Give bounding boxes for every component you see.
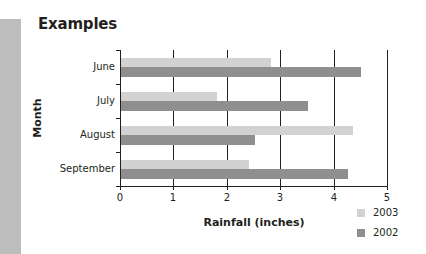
bar-september-2002 xyxy=(121,169,348,179)
x-axis xyxy=(116,186,388,187)
gridline-5 xyxy=(387,50,388,190)
y-tick xyxy=(116,84,120,85)
y-tick-label-june: June xyxy=(93,61,115,72)
legend-item-2003: 2003 xyxy=(357,207,398,218)
x-tick-label-3: 3 xyxy=(277,192,283,203)
legend-label-2003: 2003 xyxy=(373,207,398,218)
x-tick-label-0: 0 xyxy=(117,192,123,203)
y-tick xyxy=(116,186,120,187)
y-tick-label-september: September xyxy=(60,163,115,174)
chart-page: Examples Month Rainfall (inches) 012345J… xyxy=(0,0,426,254)
bar-july-2002 xyxy=(121,101,308,111)
y-tick xyxy=(116,152,120,153)
x-tick-label-2: 2 xyxy=(224,192,230,203)
bar-august-2002 xyxy=(121,135,255,145)
bar-august-2003 xyxy=(121,126,353,135)
x-tick-label-1: 1 xyxy=(170,192,176,203)
legend-swatch-2003 xyxy=(357,209,365,217)
x-tick-label-4: 4 xyxy=(331,192,337,203)
legend-label-2002: 2002 xyxy=(373,227,398,238)
y-tick xyxy=(116,50,120,51)
y-tick-label-august: August xyxy=(80,129,115,140)
bar-september-2003 xyxy=(121,160,249,169)
bar-june-2003 xyxy=(121,58,271,67)
y-tick xyxy=(116,118,120,119)
x-tick-label-5: 5 xyxy=(384,192,390,203)
bar-july-2003 xyxy=(121,92,217,101)
bar-june-2002 xyxy=(121,67,361,77)
legend-item-2002: 2002 xyxy=(357,227,398,238)
legend-swatch-2002 xyxy=(357,229,365,237)
y-tick-label-july: July xyxy=(97,95,115,106)
